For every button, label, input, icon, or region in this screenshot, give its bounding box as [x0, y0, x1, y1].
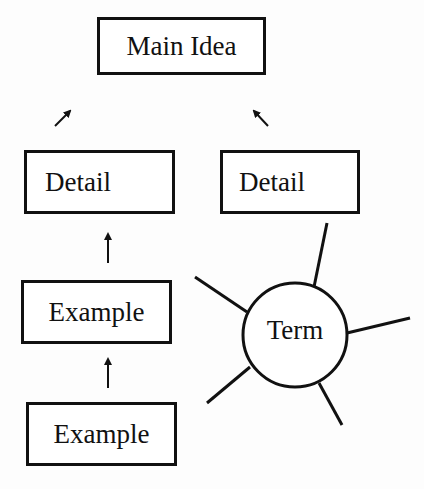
detail-label: Detail — [239, 167, 305, 198]
example-box-1: Example — [21, 280, 172, 344]
detail-label: Detail — [45, 167, 111, 198]
term-spoke — [195, 277, 247, 312]
detail-box-left: Detail — [24, 150, 175, 214]
term-spoke — [347, 318, 410, 333]
term-spoke — [207, 367, 250, 403]
arrow-nw-icon — [254, 111, 268, 126]
term-spoke — [319, 383, 342, 425]
main-idea-label: Main Idea — [126, 31, 236, 62]
detail-box-right: Detail — [220, 150, 360, 214]
term-label: Term — [243, 315, 347, 346]
example-label: Example — [54, 419, 150, 450]
arrow-ne-icon — [55, 111, 70, 126]
diagram-canvas: Main Idea Detail Detail Example Example … — [0, 0, 424, 489]
main-idea-box: Main Idea — [97, 17, 266, 75]
example-label: Example — [49, 297, 145, 328]
term-spoke — [314, 223, 327, 287]
example-box-2: Example — [26, 402, 177, 466]
